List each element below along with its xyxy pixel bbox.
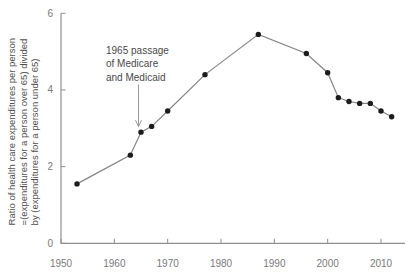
data-point-marker [336,95,341,100]
x-tick-label: 1980 [210,258,233,269]
annotation-line: 1965 passage [106,44,169,57]
y-axis-label: Ratio of health care expenditures per pe… [6,55,41,225]
data-point-marker [202,72,207,77]
y-tick-label: 0 [47,238,53,249]
data-point-marker [138,129,143,134]
y-tick-label: 6 [47,8,53,19]
y-tick-label: 2 [47,161,53,172]
annotation-line: and Medicaid [106,71,169,84]
x-tick-label: 2010 [370,258,393,269]
y-axis-label-line: Ratio of health care expenditures per pe… [6,55,18,225]
y-tick-label: 4 [47,84,53,95]
axis-tick-labels: 19501960197019801990200020100246 [47,8,392,269]
data-point-marker [74,181,79,186]
data-point-marker [389,114,394,119]
annotation-arrow [136,85,142,127]
data-point-marker [368,101,373,106]
y-axis-label-line: by (expenditures for a person under 65) [29,55,41,225]
data-point-marker [378,108,383,113]
line-chart-canvas: 19501960197019801990200020100246 [0,0,410,277]
x-tick-label: 1970 [157,258,180,269]
x-tick-label: 2000 [317,258,340,269]
data-point-marker [325,70,330,75]
x-tick-label: 1960 [103,258,126,269]
data-point-marker [304,51,309,56]
data-point-marker [256,32,261,37]
data-point-marker [357,101,362,106]
data-point-marker [346,99,351,104]
medicare-annotation-text: 1965 passage of Medicare and Medicaid [106,44,169,84]
data-point-marker [165,108,170,113]
x-tick-label: 1990 [263,258,286,269]
x-tick-label: 1950 [50,258,73,269]
data-point-marker [128,152,133,157]
data-point-marker [149,124,154,129]
y-axis-label-line: =(expenditures for a person over 65) div… [17,55,29,225]
annotation-line: of Medicare [106,57,169,70]
health-expenditure-ratio-chart: 19501960197019801990200020100246 Ratio o… [0,0,410,277]
